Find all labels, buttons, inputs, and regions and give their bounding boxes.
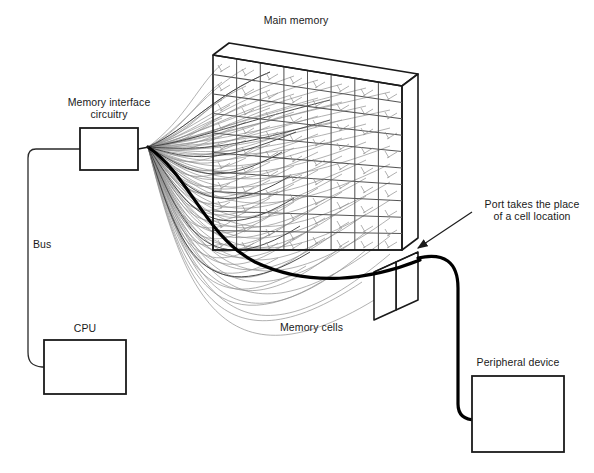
label-peripheral-device: Peripheral device [468, 356, 568, 368]
peripheral-device-box[interactable] [472, 376, 564, 452]
peripheral-cable [418, 256, 476, 420]
diagram-svg [0, 0, 594, 473]
label-port-note-line1: Port takes the place [473, 198, 591, 210]
label-memory-interface-line2: circuitry [59, 108, 159, 120]
diagram-canvas: Main memory Memory interface circuitry B… [0, 0, 594, 473]
label-port-note-line2: of a cell location [473, 210, 591, 222]
bus-line [28, 149, 80, 367]
cpu-box[interactable] [44, 340, 126, 394]
port-note-leader [418, 212, 472, 248]
interface-fan-stem [138, 147, 149, 149]
label-memory-cells: Memory cells [280, 321, 343, 333]
memory-interface-box[interactable] [80, 128, 138, 170]
label-memory-interface-line1: Memory interface [59, 96, 159, 108]
label-main-memory: Main memory [236, 14, 356, 26]
label-cpu: CPU [58, 322, 112, 334]
label-bus: Bus [33, 238, 51, 250]
memory-slab [213, 43, 418, 250]
